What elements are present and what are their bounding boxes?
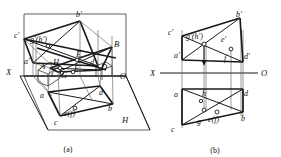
figure-page: X O H b′ c′ g′(h′) B E a′ A H d′ F D C G… [0,0,281,157]
label-a-b: a [174,90,178,99]
label-c-prime-b: c′ [168,28,174,37]
axis-line-xo-a [20,76,150,130]
label-a-prime-b: a′ [174,51,180,60]
label-gh-prime-a: g′(h′) [30,35,47,44]
label-axis-x-b: X [149,68,156,78]
label-gh-prime-b: g′(h′) [186,32,203,41]
label-axis-o-b: O [261,68,267,78]
label-d-prime-b: d′ [244,52,250,61]
label-c-lower-b: c [171,125,175,134]
label-E-upper-a: E [75,49,82,59]
label-C-a: C [51,69,57,79]
label-b-lower-a: b [108,104,112,113]
label-G-a: G [61,70,67,80]
label-b-lower-b: b [241,114,245,123]
label-h-b: h [202,89,206,98]
label-axis-h-a: H [121,115,129,125]
caption-a: (a) [64,145,73,154]
label-a-prime-a: a′ [24,57,30,66]
label-B-a: B [114,39,119,49]
label-A-a: A [39,61,46,71]
node-h-b [199,99,202,102]
node-gh-prime-a [46,44,50,48]
label-b-prime-b: b′ [236,10,242,19]
node-ef-b [215,110,219,114]
label-a-lower-a: a [40,91,44,100]
label-F-a: F [73,63,80,73]
h-projection-abcd-a [48,86,113,116]
label-axis-o-a: O [120,71,126,81]
label-d-prime-a: d′ [90,58,96,67]
label-e-prime-b: e′ [221,35,227,44]
label-ef-b: e(f) [208,115,219,124]
label-D-a: D [100,62,108,72]
node-g-b [202,108,206,112]
label-H-a: H [52,57,60,67]
label-c-prime-a: c′ [14,31,20,40]
label-c-lower-a: c [54,118,58,127]
label-g-b: g [197,117,201,126]
label-d-b: d [244,89,249,98]
label-b-prime-a: b′ [76,10,82,19]
label-ef-a: e(f) [64,109,75,118]
label-axis-x-a: X [5,67,12,77]
caption-b: (b) [210,146,220,155]
figure-a-svg: X O H b′ c′ g′(h′) B E a′ A H d′ F D C G… [0,0,281,157]
captions: (a) (b) [64,145,220,155]
node-gh-prime-b [202,42,206,46]
node-ef-prime-b [229,47,233,51]
